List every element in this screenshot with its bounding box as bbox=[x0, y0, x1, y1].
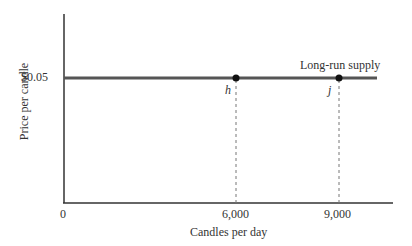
curve-label: Long-run supply bbox=[300, 58, 380, 73]
point-h bbox=[233, 75, 240, 82]
x-axis-title: Candles per day bbox=[190, 225, 267, 240]
x-tick-2: 9,000 bbox=[324, 207, 351, 222]
point-j-label: j bbox=[328, 83, 331, 98]
x-tick-1: 6,000 bbox=[222, 207, 249, 222]
y-axis-title: Price per candle bbox=[17, 63, 32, 140]
point-h-label: h bbox=[225, 83, 231, 98]
point-j bbox=[336, 75, 343, 82]
x-tick-0: 0 bbox=[60, 207, 66, 222]
